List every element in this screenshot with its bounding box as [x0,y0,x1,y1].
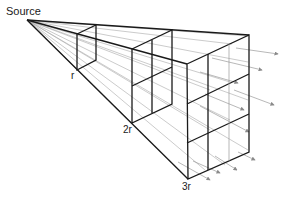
distance-label-r: r [71,71,74,81]
source-label: Source [6,6,41,17]
rays [27,20,248,179]
distance-label-3r: 3r [182,182,191,192]
pyramid-edges [27,20,249,179]
diagram-canvas [0,0,296,200]
square-2r [132,30,172,123]
distance-label-2r: 2r [123,125,132,135]
